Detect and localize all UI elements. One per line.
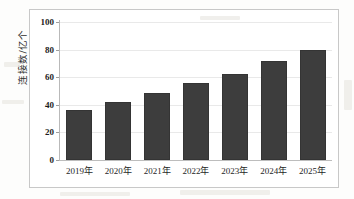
y-tick-label-20: 20	[28, 127, 54, 137]
x-tick-label-2020: 2020年	[99, 164, 138, 177]
x-tick-label-2023: 2023年	[215, 164, 254, 177]
bar-2022[interactable]	[183, 83, 209, 160]
scan-artifact	[344, 80, 352, 110]
scan-artifact	[60, 192, 130, 196]
bar-chart-figure: 连接数/亿个 100 80 60 40 20 0	[0, 0, 354, 199]
bar-2023[interactable]	[222, 74, 248, 160]
scan-artifact	[2, 100, 24, 104]
x-tick-label-2019: 2019年	[60, 164, 99, 177]
bar-2019[interactable]	[66, 110, 92, 160]
x-tick-label-2022: 2022年	[177, 164, 216, 177]
bar-2020[interactable]	[105, 102, 131, 160]
bar-2024[interactable]	[261, 61, 287, 160]
bar-slot-2025	[293, 22, 332, 160]
y-tick-label-100: 100	[28, 17, 54, 27]
x-axis-tick-labels: 2019年 2020年 2021年 2022年 2023年 2024年 2025…	[60, 164, 332, 180]
x-axis-line	[60, 160, 332, 161]
bar-slot-2020	[99, 22, 138, 160]
bar-slot-2023	[215, 22, 254, 160]
x-tick-label-2021: 2021年	[138, 164, 177, 177]
y-tick-label-60: 60	[28, 72, 54, 82]
scan-artifact	[4, 62, 20, 67]
bar-slot-2019	[60, 22, 99, 160]
scan-artifact	[180, 190, 270, 195]
bar-slot-2022	[177, 22, 216, 160]
bar-slot-2024	[254, 22, 293, 160]
bar-2021[interactable]	[144, 93, 170, 160]
y-tick-label-0: 0	[28, 155, 54, 165]
bar-2025[interactable]	[300, 50, 326, 160]
bar-slot-2021	[138, 22, 177, 160]
x-tick-label-2024: 2024年	[254, 164, 293, 177]
bars	[60, 22, 332, 160]
plot-area	[60, 22, 332, 160]
x-tick-label-2025: 2025年	[293, 164, 332, 177]
y-tick-label-80: 80	[28, 45, 54, 55]
y-tick-label-40: 40	[28, 100, 54, 110]
y-axis-tick-labels: 100 80 60 40 20 0	[26, 22, 54, 160]
scan-artifact	[200, 16, 240, 20]
